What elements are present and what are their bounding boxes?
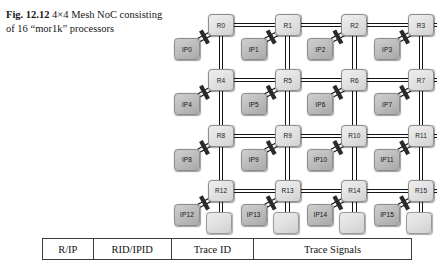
router-node-r13: R13	[275, 180, 301, 202]
router-node-r15-label: R15	[415, 187, 427, 194]
ip-node-ip2-label: IP2	[315, 46, 325, 53]
router-node-r5: R5	[275, 69, 301, 91]
router-node-r0-label: R0	[217, 22, 226, 29]
router-node-r10: R10	[341, 125, 367, 147]
router-node-r15: R15	[408, 180, 434, 202]
router-node-r2: R2	[341, 14, 367, 36]
router-node-r13-label: R13	[282, 187, 294, 194]
ip-node-ip0-label: IP0	[182, 46, 192, 53]
router-node-r11: R11	[408, 125, 434, 147]
router-node-r8-label: R8	[217, 132, 226, 139]
stub-box-bottom-1	[273, 212, 299, 234]
ip-node-ip15-label: IP15	[380, 211, 394, 218]
ip-node-ip10-label: IP10	[314, 156, 328, 163]
router-node-r2-label: R2	[350, 22, 359, 29]
ip-node-ip13: IP13	[241, 204, 267, 226]
stub-box-bottom-0	[206, 212, 232, 234]
router-node-r11-label: R11	[415, 132, 427, 139]
ip-node-ip11: IP11	[374, 149, 400, 171]
ip-node-ip3: IP3	[374, 38, 400, 60]
ip-node-ip11-label: IP11	[380, 156, 393, 163]
table-header-r-ip: R/IP	[43, 239, 94, 260]
router-node-r6: R6	[341, 69, 367, 91]
router-node-r12-label: R12	[215, 187, 227, 194]
ip-node-ip1: IP1	[241, 38, 267, 60]
router-node-r8: R8	[208, 125, 234, 147]
table-header-trace-id: Trace ID	[171, 239, 253, 260]
router-node-r1-label: R1	[283, 22, 292, 29]
router-node-r9-label: R9	[283, 132, 292, 139]
router-node-r4: R4	[208, 69, 234, 91]
ip-node-ip6-label: IP6	[315, 101, 325, 108]
ip-node-ip5: IP5	[241, 93, 267, 115]
ip-node-ip8: IP8	[174, 149, 200, 171]
mesh-noc-diagram: IP0IP1IP2IP3IP4IP5IP6IP7IP8IP9IP10IP11IP…	[0, 0, 437, 232]
ip-node-ip3-label: IP3	[382, 46, 392, 53]
ip-node-ip5-label: IP5	[249, 101, 259, 108]
router-node-r10-label: R10	[348, 132, 360, 139]
router-node-r6-label: R6	[350, 77, 359, 84]
ip-node-ip15: IP15	[374, 204, 400, 226]
router-node-r7-label: R7	[417, 77, 426, 84]
router-node-r9: R9	[275, 125, 301, 147]
table-header-trace-signals: Trace Signals	[253, 239, 411, 260]
ip-node-ip13-label: IP13	[247, 211, 261, 218]
ip-node-ip10: IP10	[307, 149, 333, 171]
table-row: R/IP RID/IPID Trace ID Trace Signals	[43, 239, 412, 260]
ip-node-ip14-label: IP14	[314, 211, 328, 218]
table-header-rid-ipid: RID/IPID	[93, 239, 171, 260]
stub-box-bottom-3	[406, 212, 432, 234]
ip-node-ip1-label: IP1	[249, 46, 259, 53]
router-node-r14-label: R14	[348, 187, 360, 194]
router-node-r3: R3	[408, 14, 434, 36]
ip-node-ip9: IP9	[241, 149, 267, 171]
router-node-r5-label: R5	[283, 77, 292, 84]
ip-node-ip7: IP7	[374, 93, 400, 115]
ip-node-ip2: IP2	[307, 38, 333, 60]
router-node-r1: R1	[275, 14, 301, 36]
ip-node-ip12-label: IP12	[180, 211, 194, 218]
router-node-r0: R0	[208, 14, 234, 36]
router-node-r12: R12	[208, 180, 234, 202]
ip-node-ip6: IP6	[307, 93, 333, 115]
ip-node-ip9-label: IP9	[249, 156, 259, 163]
router-node-r4-label: R4	[217, 77, 226, 84]
stub-box-bottom-2	[339, 212, 365, 234]
ip-node-ip4-label: IP4	[182, 101, 192, 108]
router-node-r3-label: R3	[417, 22, 426, 29]
ip-node-ip8-label: IP8	[182, 156, 192, 163]
ip-node-ip12: IP12	[174, 204, 200, 226]
router-node-r7: R7	[408, 69, 434, 91]
ip-node-ip7-label: IP7	[382, 101, 392, 108]
ip-node-ip14: IP14	[307, 204, 333, 226]
router-node-r14: R14	[341, 180, 367, 202]
ip-node-ip0: IP0	[174, 38, 200, 60]
trace-table: R/IP RID/IPID Trace ID Trace Signals	[42, 238, 412, 260]
ip-node-ip4: IP4	[174, 93, 200, 115]
